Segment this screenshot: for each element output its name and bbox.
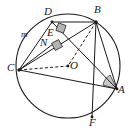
point-label-A: A — [118, 84, 125, 95]
point-label-B: B — [94, 4, 101, 15]
segment-C-A — [19, 70, 117, 89]
point-label-N: N — [40, 37, 47, 48]
point-label-C: C — [7, 62, 14, 73]
vertex-dot-O — [67, 65, 70, 68]
vertex-dot-B — [94, 20, 97, 23]
right-angle-at-E — [56, 23, 66, 33]
segment-B-F — [92, 22, 96, 117]
geometry-figure: D B m E N C O A F — [0, 0, 131, 131]
point-label-O: O — [70, 60, 78, 71]
line-label-m: m — [21, 29, 28, 40]
segment-C-N — [19, 41, 57, 70]
vertex-dot-C — [17, 68, 20, 71]
vertex-dot-D — [51, 21, 54, 24]
geometry-canvas — [0, 0, 131, 131]
segment-C-O-dashed — [19, 66, 68, 70]
point-label-E: E — [47, 27, 54, 38]
point-label-D: D — [44, 6, 52, 17]
point-label-F: F — [89, 117, 96, 128]
